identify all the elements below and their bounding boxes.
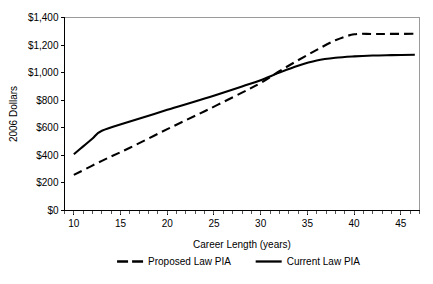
chart-legend: Proposed Law PIACurrent Law PIA <box>117 256 360 267</box>
y-tick-label: $200 <box>36 177 59 188</box>
y-axis-title: 2006 Dollars <box>8 86 19 142</box>
legend-item[interactable]: Current Law PIA <box>256 256 361 267</box>
x-tick-label: 35 <box>302 218 314 229</box>
x-tick-label: 40 <box>349 218 361 229</box>
legend-label: Proposed Law PIA <box>148 256 231 267</box>
y-tick-label: $1,400 <box>28 12 59 23</box>
x-tick-label: 20 <box>162 218 174 229</box>
x-tick-label: 45 <box>395 218 407 229</box>
y-tick-label: $400 <box>36 150 59 161</box>
x-axis-title: Career Length (years) <box>193 239 291 250</box>
y-tick-label: $600 <box>36 122 59 133</box>
legend-item[interactable]: Proposed Law PIA <box>117 256 231 267</box>
y-tick-label: $1,200 <box>28 40 59 51</box>
x-tick-label: 15 <box>115 218 127 229</box>
x-tick-label: 10 <box>68 218 80 229</box>
data-series-group <box>74 34 415 175</box>
y-axis-ticks: $0$200$400$600$800$1,000$1,200$1,400 <box>28 12 65 216</box>
x-tick-label: 30 <box>255 218 267 229</box>
x-axis-ticks: 1015202530354045 <box>68 211 407 229</box>
legend-label: Current Law PIA <box>287 256 361 267</box>
plot-frame <box>65 18 420 211</box>
line-chart: $0$200$400$600$800$1,000$1,200$1,400 101… <box>0 0 433 284</box>
y-tick-label: $1,000 <box>28 67 59 78</box>
x-tick-label: 25 <box>208 218 220 229</box>
y-tick-label: $800 <box>36 95 59 106</box>
y-tick-label: $0 <box>47 205 59 216</box>
series-line-current-law-pia <box>74 55 415 155</box>
chart-container: $0$200$400$600$800$1,000$1,200$1,400 101… <box>0 0 433 284</box>
